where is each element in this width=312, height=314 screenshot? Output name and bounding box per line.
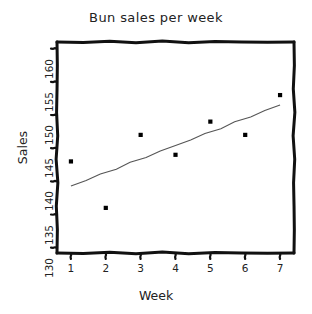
y-tick-label: 160 — [43, 48, 55, 90]
axes — [56, 41, 295, 254]
data-point — [208, 120, 212, 124]
data-point — [173, 153, 177, 157]
data-point — [69, 159, 73, 163]
x-tick-label: 6 — [233, 262, 257, 274]
x-tick-label: 2 — [94, 262, 118, 274]
x-tick-label: 4 — [164, 262, 188, 274]
x-tick-label: 1 — [59, 262, 83, 274]
data-point — [243, 133, 247, 137]
trend-line — [71, 105, 280, 186]
x-tick-label: 3 — [129, 262, 153, 274]
data-point — [278, 93, 282, 97]
tick-marks — [51, 48, 280, 259]
x-tick-label: 7 — [268, 262, 292, 274]
data-point — [139, 133, 143, 137]
data-points — [69, 93, 282, 210]
chart-figure: Bun sales per week Sales Week 1301351401… — [0, 0, 312, 314]
x-tick-label: 5 — [198, 262, 222, 274]
data-point — [104, 206, 108, 210]
